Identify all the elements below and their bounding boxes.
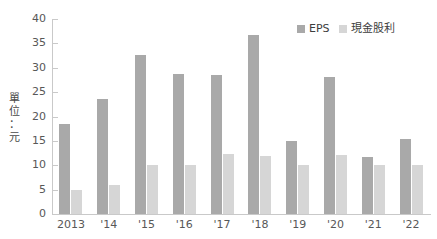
y-axis-tick-label-text: 30 [20, 62, 46, 73]
x-axis-tick-label: '16 [165, 219, 203, 231]
bar-cash-dividend-21[interactable] [374, 165, 385, 214]
bar-cash-dividend-22[interactable] [412, 165, 423, 214]
y-axis-tick-label-text: 35 [20, 37, 46, 48]
y-axis-tick [53, 141, 58, 142]
y-axis-tick [53, 43, 58, 44]
y-axis-tick [53, 68, 58, 69]
y-axis-tick-label-text: 15 [20, 135, 46, 146]
bar-cash-dividend-16[interactable] [185, 165, 196, 214]
bar-eps-14[interactable] [97, 99, 108, 214]
bar-cash-dividend-20[interactable] [336, 155, 347, 214]
y-axis-tick [53, 117, 58, 118]
y-axis-tick [53, 214, 58, 215]
x-axis-line [52, 214, 431, 215]
y-axis-tick-label-text: 0 [20, 208, 46, 219]
bar-cash-dividend-14[interactable] [109, 185, 120, 214]
y-axis-tick-label: 40 [20, 13, 46, 24]
legend-label: 現金股利 [351, 23, 395, 34]
bar-eps-18[interactable] [248, 35, 259, 214]
x-axis-tick-label: '18 [241, 219, 279, 231]
legend-item-eps[interactable]: EPS [297, 23, 330, 34]
bar-eps-15[interactable] [135, 55, 146, 214]
bar-cash-dividend-17[interactable] [223, 154, 234, 214]
x-axis-tick-label: '19 [279, 219, 317, 231]
bar-cash-dividend-18[interactable] [260, 156, 271, 215]
eps-dividend-bar-chart: 單 位 ： 元 4035302520151050 2013'14'15'16'1… [0, 0, 437, 239]
bar-cash-dividend-19[interactable] [298, 165, 309, 214]
y-axis-tick [53, 190, 58, 191]
y-axis-tick-label-text: 40 [20, 13, 46, 24]
x-axis-tick-label: '17 [203, 219, 241, 231]
y-axis-tick [53, 165, 58, 166]
y-axis-tick-label-text: 10 [20, 159, 46, 170]
legend-swatch-icon [297, 25, 305, 33]
x-axis-tick-label: '21 [354, 219, 392, 231]
bar-eps-21[interactable] [362, 157, 373, 214]
bar-eps-2013[interactable] [59, 124, 70, 214]
y-axis-tick-label: 35 [20, 37, 46, 48]
x-axis-tick-label: '15 [128, 219, 166, 231]
y-axis-tick-label: 0 [20, 208, 46, 219]
bar-eps-20[interactable] [324, 77, 335, 214]
y-axis-tick-label: 10 [20, 159, 46, 170]
x-axis-tick-label: '22 [392, 219, 430, 231]
bar-cash-dividend-15[interactable] [147, 165, 158, 214]
x-axis-tick-label: 2013 [52, 219, 90, 231]
y-axis-tick [53, 92, 58, 93]
y-axis-tick-label: 30 [20, 62, 46, 73]
y-axis-tick-label: 20 [20, 111, 46, 122]
legend-label: EPS [309, 23, 330, 34]
chart-legend: EPS 現金股利 [292, 20, 400, 37]
bar-eps-17[interactable] [211, 75, 222, 214]
y-axis-tick-label: 25 [20, 86, 46, 97]
bar-cash-dividend-2013[interactable] [71, 190, 82, 214]
legend-item-cash-dividend[interactable]: 現金股利 [339, 23, 395, 34]
y-axis-tick-label: 5 [20, 184, 46, 195]
y-axis-tick [53, 19, 58, 20]
y-axis-tick-label-text: 25 [20, 86, 46, 97]
bar-eps-16[interactable] [173, 74, 184, 214]
y-axis-tick-label-text: 20 [20, 111, 46, 122]
x-axis-tick-label: '20 [317, 219, 355, 231]
legend-swatch-icon [339, 25, 347, 33]
bar-eps-19[interactable] [286, 141, 297, 214]
y-axis-tick-label-text: 5 [20, 184, 46, 195]
y-axis-tick-label: 15 [20, 135, 46, 146]
x-axis-tick-label: '14 [90, 219, 128, 231]
bar-eps-22[interactable] [400, 139, 411, 214]
